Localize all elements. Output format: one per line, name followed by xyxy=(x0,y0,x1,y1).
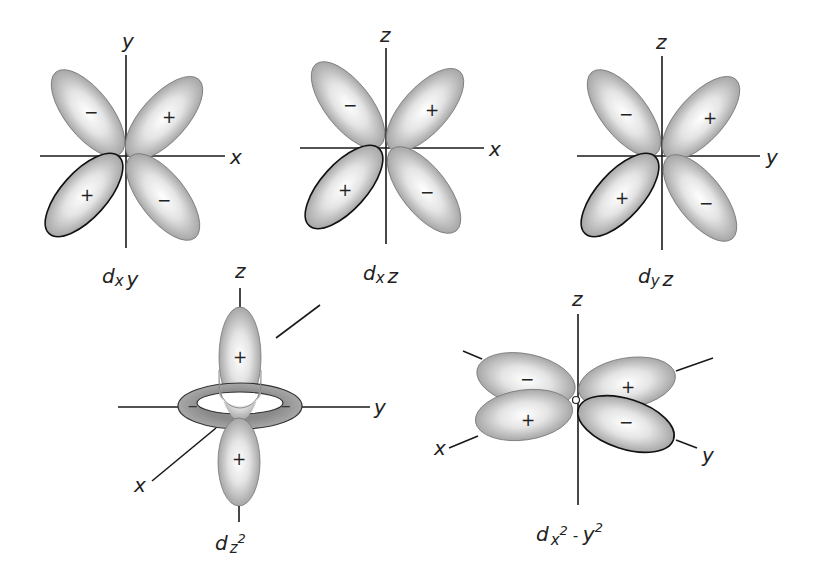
orbital-dx2-y2: − + + − z x y dx2 - y2 xyxy=(433,287,715,549)
axis-label-vertical: z xyxy=(571,287,583,311)
axis-label-vertical: z xyxy=(379,23,391,47)
axis-label-diag-left: x xyxy=(433,436,446,460)
axis-label-horizontal: x xyxy=(488,137,501,161)
orbital-title: dxy xyxy=(102,264,140,291)
sign-lower-right: − xyxy=(420,182,434,202)
axis-label-diagonal: x xyxy=(133,473,146,497)
sign-upper-right: + xyxy=(621,377,635,397)
orbital-dyz: − + + − z y dyz xyxy=(568,30,779,291)
sign-upper-right: + xyxy=(703,108,717,128)
x-axis-front xyxy=(152,428,216,481)
axis-label-vertical: y xyxy=(121,29,135,53)
sign-upper-left: − xyxy=(84,102,98,122)
axis-label-horizontal: x xyxy=(229,145,242,169)
sign-ring-left: − xyxy=(188,399,199,414)
orbital-dz2: + + − − z y x dz2 xyxy=(118,259,387,557)
orbital-title: dyz xyxy=(638,264,674,291)
axis-label-horizontal: y xyxy=(765,145,779,169)
sign-lower-left: + xyxy=(80,185,94,205)
sign-lower-right: − xyxy=(619,412,633,432)
orbital-dxy: − + + − y x dxy xyxy=(32,29,242,291)
sign-upper-left: − xyxy=(619,104,633,124)
x-axis-front xyxy=(449,436,478,448)
sign-ring-right: − xyxy=(281,399,292,414)
axis-label-horizontal: y xyxy=(373,395,387,419)
axis-label-diag-right: y xyxy=(701,443,715,467)
sign-lower-left: + xyxy=(615,188,629,208)
sign-lower-right: − xyxy=(699,193,713,213)
y-axis-front xyxy=(676,440,697,448)
sign-bottom: + xyxy=(232,449,246,469)
orbital-title: dz2 xyxy=(215,531,246,557)
orbital-title: dx2 - y2 xyxy=(536,520,603,549)
x-axis-back xyxy=(276,305,320,338)
sign-lower-left: + xyxy=(521,410,535,430)
axis-label-vertical: z xyxy=(655,30,667,54)
sign-upper-right: + xyxy=(162,107,176,127)
x-axis-back xyxy=(463,351,482,359)
orbital-dxz: − + + − z x dxz xyxy=(292,23,501,288)
y-axis-back xyxy=(676,358,713,371)
sign-upper-left: − xyxy=(520,369,534,389)
sign-lower-left: + xyxy=(338,180,352,200)
orbital-title: dxz xyxy=(363,261,399,288)
nucleus-dot xyxy=(573,397,580,404)
d-orbitals-diagram: − + + − y x dxy − + + − z x dxz − + + − … xyxy=(0,0,816,587)
sign-upper-left: − xyxy=(343,95,357,115)
sign-lower-right: − xyxy=(157,190,171,210)
sign-upper-right: + xyxy=(425,100,439,120)
sign-top: + xyxy=(233,347,247,367)
axis-label-vertical: z xyxy=(234,259,246,283)
